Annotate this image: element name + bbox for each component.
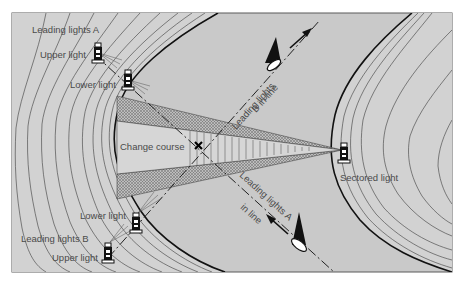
label-leading-lights-b: Leading lights B: [21, 233, 89, 244]
label-upper-light-b: Upper light: [52, 252, 98, 263]
label-lower-light-b: Lower light: [80, 210, 126, 221]
label-change-course: Change course: [120, 141, 184, 152]
label-leading-lights-a: Leading lights A: [32, 24, 100, 35]
label-lower-light-a: Lower light: [70, 79, 116, 90]
leading-lights-diagram: Leading lights A Upper light Lower light…: [0, 0, 459, 283]
label-upper-light-a: Upper light: [40, 49, 86, 60]
label-sectored-light: Sectored light: [340, 172, 398, 183]
